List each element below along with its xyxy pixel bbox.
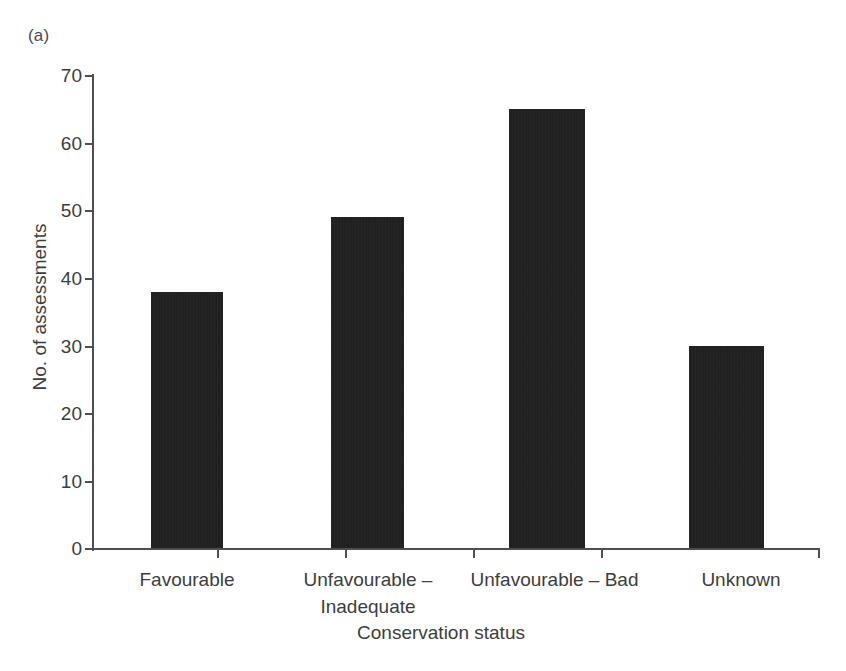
- x-axis-title-text: Conservation status: [357, 622, 525, 643]
- y-tick-50: [85, 210, 93, 212]
- y-tick-label-70: 70: [0, 65, 82, 87]
- y-axis-title: No. of assessments: [29, 177, 51, 437]
- x-category-label-unfavourable-bad: Unfavourable – Bad: [447, 566, 662, 593]
- bar-unfavourable-bad: [509, 109, 585, 548]
- x-axis-line: [92, 548, 820, 550]
- x-category-label-unfavourable-inadequate: Unfavourable – Inadequate: [263, 566, 473, 620]
- y-tick-0: [85, 548, 93, 550]
- x-tick-separator-2: [345, 549, 347, 558]
- bar-unfavourable-inadequate: [331, 217, 404, 548]
- x-axis-title: Conservation status: [0, 622, 846, 644]
- x-category-label-unknown: Unknown: [651, 566, 831, 593]
- y-tick-10: [85, 481, 93, 483]
- x-tick-separator-4: [601, 549, 603, 558]
- bar-unknown: [689, 346, 764, 548]
- x-category-label-favourable: Favourable: [97, 566, 277, 593]
- x-tick-separator-1: [217, 549, 219, 558]
- y-tick-30: [85, 346, 93, 348]
- y-tick-label-10: 10: [0, 471, 82, 493]
- figure-panel-a: (a) 70 60 50 40 30 20 10: [0, 0, 846, 671]
- y-axis-line: [92, 74, 94, 551]
- y-tick-40: [85, 278, 93, 280]
- x-tick-separator-3: [473, 549, 475, 558]
- y-tick-70: [85, 75, 93, 77]
- x-tick-end: [818, 549, 820, 558]
- bar-chart-plot: 70 60 50 40 30 20 10 0: [0, 0, 846, 671]
- y-tick-label-60: 60: [0, 133, 82, 155]
- y-tick-label-0: 0: [0, 538, 82, 560]
- y-tick-20: [85, 413, 93, 415]
- y-tick-60: [85, 143, 93, 145]
- bar-favourable: [151, 292, 223, 548]
